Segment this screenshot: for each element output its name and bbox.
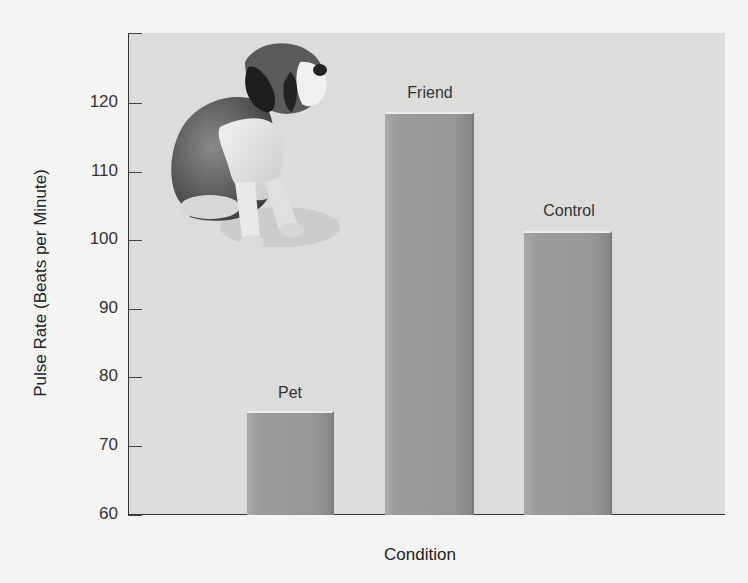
bar-control	[524, 231, 612, 515]
ytick-label: 120	[78, 92, 118, 112]
ytick-mark	[128, 172, 142, 173]
x-axis-label: Condition	[384, 545, 456, 565]
ytick-label: 80	[78, 366, 118, 386]
dog-illustration-icon	[160, 32, 340, 257]
y-axis-label: Pulse Rate (Beats per Minute)	[31, 169, 51, 397]
bar-label-control: Control	[543, 202, 595, 220]
ytick-mark	[128, 309, 142, 310]
bar-pet	[247, 411, 334, 515]
bar-label-friend: Friend	[407, 84, 452, 102]
ytick-label: 60	[78, 504, 118, 524]
ytick-mark	[128, 515, 142, 516]
ytick-label: 70	[78, 435, 118, 455]
ytick-mark	[128, 446, 142, 447]
ytick-mark	[128, 240, 142, 241]
ytick-mark	[128, 377, 142, 378]
ytick-label: 110	[78, 161, 118, 181]
ytick-mark	[128, 33, 142, 34]
bar-label-pet: Pet	[278, 384, 302, 402]
bar-friend	[385, 112, 474, 515]
ytick-mark	[128, 103, 142, 104]
ytick-label: 90	[78, 298, 118, 318]
ytick-label: 100	[78, 229, 118, 249]
